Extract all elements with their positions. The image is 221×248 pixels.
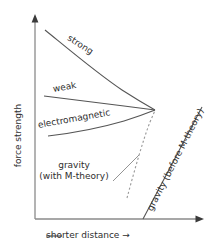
x-axis-label-text: shorter distance (46, 230, 119, 240)
x-axis-label-arrow-glyph: → (122, 230, 130, 240)
x-axis-arrowhead (196, 216, 205, 223)
gravity-with-m-theory-line-2: (with M-theory) (29, 171, 119, 182)
curve-gravity-with-m-theory (127, 110, 155, 198)
curve-weak (44, 96, 155, 110)
gravity-with-m-theory-line-1: gravity (29, 160, 119, 171)
x-axis-label: shorter distance → (46, 230, 130, 241)
y-axis-arrowhead (32, 14, 39, 23)
curve-label-gravity-with-m-theory: gravity (with M-theory) (29, 160, 119, 182)
y-axis-label: force strength (13, 96, 24, 176)
force-strength-chart: strong weak electromagnetic gravity (wit… (0, 0, 221, 248)
